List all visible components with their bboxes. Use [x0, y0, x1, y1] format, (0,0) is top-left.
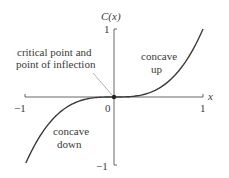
y-axis-label: C(x) — [101, 10, 121, 23]
chart: C(x) x −1 0 1 1 −1 critical point and po… — [0, 0, 229, 178]
annotation-critical-point-line2: point of inflection — [16, 58, 96, 70]
x-axis-label: x — [207, 90, 213, 102]
y-tick-neg-one: −1 — [96, 160, 108, 172]
concave-down-line1: concave — [53, 125, 89, 137]
x-tick-zero: 0 — [105, 102, 111, 114]
annotation-leader-line — [93, 73, 112, 95]
concave-up-line2: up — [151, 63, 163, 75]
x-tick-neg-one: −1 — [14, 102, 26, 114]
critical-point-marker — [112, 95, 116, 99]
x-tick-one: 1 — [200, 102, 206, 114]
y-tick-one: 1 — [104, 23, 110, 35]
concave-down-line2: down — [57, 138, 82, 150]
concave-up-line1: concave — [141, 50, 177, 62]
annotation-critical-point-line1: critical point and — [17, 46, 92, 58]
